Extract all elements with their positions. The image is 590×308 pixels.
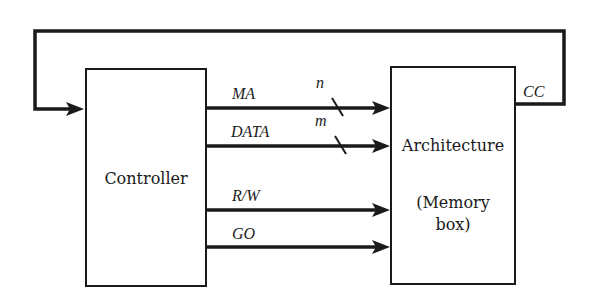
box-label: box): [435, 215, 470, 234]
architecture-label: Architecture: [401, 136, 504, 155]
m-width-label: m: [315, 112, 327, 129]
architecture-block: [391, 67, 515, 284]
rw-label: R/W: [231, 187, 261, 204]
n-width-label: n: [316, 74, 324, 91]
rw-wire: [206, 203, 390, 217]
cc-label: CC: [523, 83, 545, 100]
memory-label: (Memory: [416, 193, 490, 212]
go-wire: [206, 240, 390, 254]
controller-architecture-diagram: CC Controller Architecture (Memory box) …: [0, 0, 590, 308]
controller-label: Controller: [104, 169, 188, 188]
data-label: DATA: [230, 123, 269, 140]
go-label: GO: [232, 225, 256, 242]
ma-label: MA: [231, 85, 255, 102]
